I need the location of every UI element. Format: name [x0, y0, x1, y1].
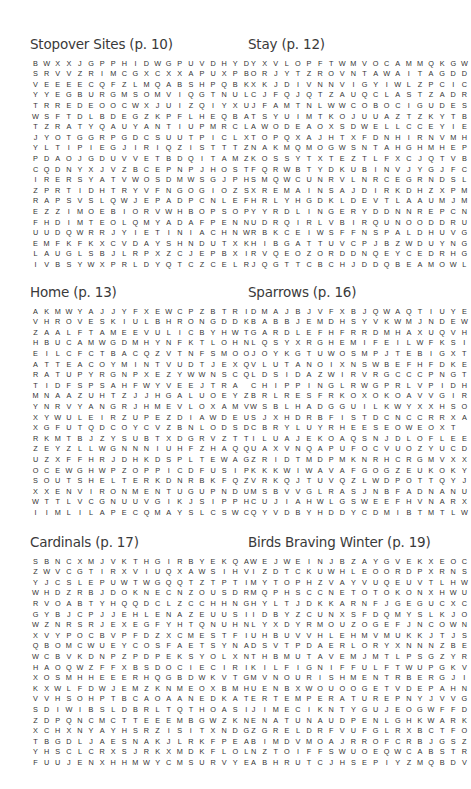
grid-letter: C: [426, 620, 437, 631]
grid-letter: N: [403, 694, 414, 705]
grid-letter: A: [185, 69, 196, 80]
grid-letter: I: [370, 185, 381, 196]
grid-letter: E: [196, 694, 207, 705]
grid-letter: C: [41, 465, 52, 476]
grid-letter: Y: [30, 90, 41, 101]
grid-letter: Y: [437, 238, 448, 249]
grid-letter: W: [248, 556, 259, 567]
grid-letter: A: [259, 143, 270, 154]
grid-letter: H: [248, 598, 259, 609]
grid-letter: Y: [281, 609, 292, 620]
grid-letter: A: [337, 598, 348, 609]
grid-letter: W: [403, 423, 414, 434]
grid-letter: Z: [414, 111, 425, 122]
grid-letter: B: [230, 79, 241, 90]
grid-letter: H: [230, 620, 241, 631]
grid-letter: A: [292, 185, 303, 196]
grid-letter: S: [448, 338, 459, 349]
grid-letter: X: [52, 454, 63, 465]
grid-letter: I: [130, 143, 141, 154]
grid-letter: E: [185, 641, 196, 652]
grid-letter: K: [208, 673, 219, 684]
grid-letter: Y: [174, 370, 185, 381]
grid-letter: P: [97, 577, 108, 588]
grid-letter: K: [315, 598, 326, 609]
grid-letter: G: [370, 380, 381, 391]
grid-letter: J: [97, 306, 108, 317]
grid-letter: N: [414, 641, 425, 652]
grid-letter: T: [303, 476, 314, 487]
grid-letter: E: [381, 497, 392, 508]
grid-letter: H: [119, 726, 130, 737]
grid-letter: D: [85, 683, 96, 694]
grid-letter: X: [30, 486, 41, 497]
grid-letter: B: [141, 433, 152, 444]
grid-letter: N: [219, 486, 230, 497]
grid-letter: V: [108, 164, 119, 175]
grid-letter: W: [370, 476, 381, 487]
grid-letter: E: [403, 348, 414, 359]
grid-letter: R: [52, 122, 63, 133]
grid-letter: C: [63, 338, 74, 349]
grid-letter: U: [370, 111, 381, 122]
grid-letter: L: [63, 507, 74, 518]
grid-letter: R: [219, 122, 230, 133]
grid-letter: I: [185, 143, 196, 154]
grid-letter: T: [437, 153, 448, 164]
grid-letter: R: [348, 206, 359, 217]
grid-letter: N: [119, 370, 130, 381]
grid-letter: W: [459, 577, 470, 588]
grid-letter: J: [248, 100, 259, 111]
grid-letter: K: [281, 348, 292, 359]
grid-letter: G: [74, 132, 85, 143]
grid-letter: J: [359, 486, 370, 497]
grid-letter: H: [414, 143, 425, 154]
grid-letter: A: [119, 348, 130, 359]
grid-letter: T: [85, 217, 96, 228]
grid-letter: Q: [370, 249, 381, 260]
grid-letter: O: [315, 736, 326, 747]
grid-letter: F: [259, 100, 270, 111]
grid-letter: I: [74, 185, 85, 196]
grid-letter: N: [163, 338, 174, 349]
grid-letter: C: [403, 412, 414, 423]
grid-letter: T: [63, 132, 74, 143]
grid-letter: E: [97, 217, 108, 228]
grid-letter: V: [208, 433, 219, 444]
grid-letter: V: [30, 694, 41, 705]
grid-letter: J: [185, 497, 196, 508]
grid-letter: V: [315, 306, 326, 317]
grid-letter: I: [97, 567, 108, 578]
grid-letter: W: [337, 747, 348, 758]
grid-letter: N: [315, 380, 326, 391]
grid-letter: E: [403, 465, 414, 476]
grid-letter: T: [196, 359, 207, 370]
grid-letter: H: [230, 567, 241, 578]
grid-letter: I: [259, 662, 270, 673]
grid-letter: G: [326, 401, 337, 412]
grid-letter: B: [219, 249, 230, 260]
grid-letter: C: [315, 588, 326, 599]
grid-letter: W: [426, 704, 437, 715]
grid-letter: G: [303, 662, 314, 673]
grid-letter: W: [403, 662, 414, 673]
grid-letter: P: [174, 58, 185, 69]
grid-letter: C: [292, 704, 303, 715]
grid-letter: S: [259, 401, 270, 412]
grid-letter: I: [403, 132, 414, 143]
grid-letter: V: [359, 370, 370, 381]
grid-letter: K: [326, 111, 337, 122]
grid-letter: S: [52, 747, 63, 758]
grid-letter: E: [414, 683, 425, 694]
grid-letter: X: [448, 598, 459, 609]
grid-letter: A: [303, 132, 314, 143]
grid-letter: P: [292, 380, 303, 391]
grid-letter: I: [30, 175, 41, 186]
grid-letter: T: [392, 662, 403, 673]
grid-letter: O: [281, 747, 292, 758]
grid-letter: O: [459, 609, 470, 620]
grid-letter: Q: [185, 90, 196, 101]
grid-letter: E: [63, 100, 74, 111]
grid-letter: A: [52, 391, 63, 402]
grid-letter: K: [426, 111, 437, 122]
